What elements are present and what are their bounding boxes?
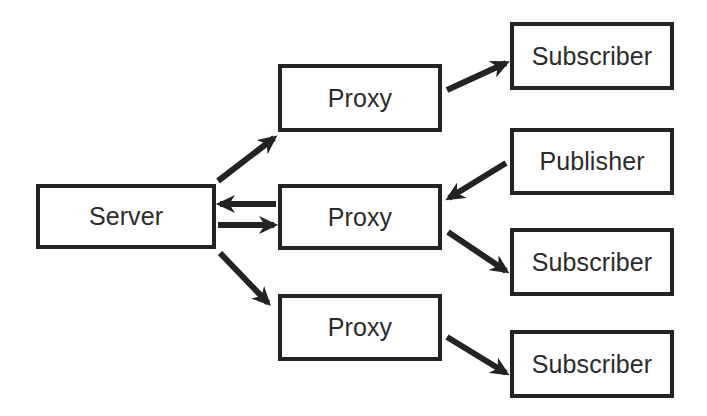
node-subscriber-bottom[interactable]: Subscriber <box>510 330 674 398</box>
node-server-label: Server <box>89 204 163 229</box>
node-server[interactable]: Server <box>36 184 216 249</box>
node-proxy-bottom-label: Proxy <box>328 315 392 340</box>
arrow-server-to-proxy-top <box>218 138 274 181</box>
node-proxy-middle-label: Proxy <box>328 205 392 230</box>
arrow-publisher-to-proxy-middle <box>449 163 506 198</box>
node-subscriber-bottom-label: Subscriber <box>532 352 653 377</box>
arrow-proxy-bottom-to-subscriber <box>447 337 506 373</box>
arrow-proxy-middle-to-subscriber <box>448 232 506 271</box>
node-proxy-middle[interactable]: Proxy <box>278 184 442 250</box>
node-proxy-top-label: Proxy <box>328 86 392 111</box>
node-proxy-bottom[interactable]: Proxy <box>278 294 442 361</box>
diagram-canvas: Server Proxy Proxy Proxy Subscriber Publ… <box>0 0 707 416</box>
node-subscriber-middle[interactable]: Subscriber <box>510 228 674 296</box>
node-publisher-label: Publisher <box>539 149 644 174</box>
node-subscriber-middle-label: Subscriber <box>532 250 653 275</box>
node-subscriber-top[interactable]: Subscriber <box>510 22 674 90</box>
arrow-server-to-proxy-bottom <box>220 253 268 303</box>
node-publisher[interactable]: Publisher <box>510 128 674 195</box>
node-subscriber-top-label: Subscriber <box>532 44 653 69</box>
arrow-proxy-top-to-subscriber <box>447 63 506 90</box>
node-proxy-top[interactable]: Proxy <box>278 64 442 132</box>
